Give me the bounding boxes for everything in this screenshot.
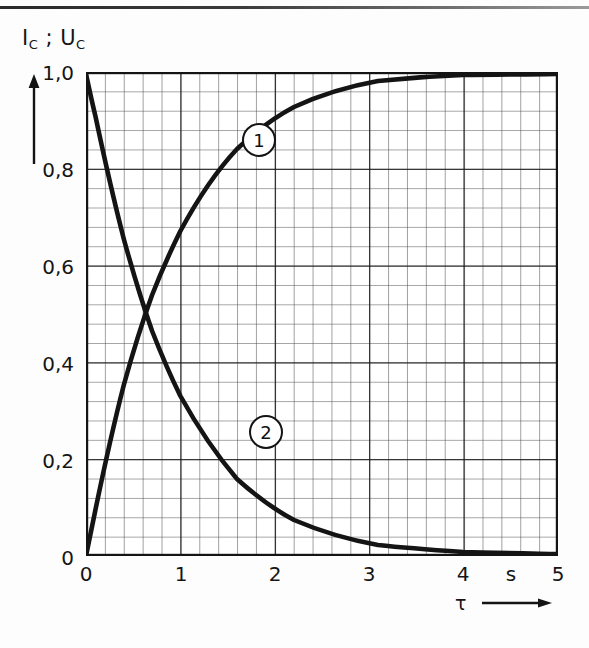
curve-2-badge: 2	[249, 415, 283, 449]
y-tick-label: 0,4	[10, 352, 74, 376]
y-axis-title: IC ; UC	[22, 26, 86, 52]
x-axis-symbol-label: τ	[455, 592, 466, 614]
x-axis-arrow-icon	[482, 596, 554, 610]
y-axis-arrow-icon	[25, 72, 43, 164]
x-axis-unit-label: s	[491, 562, 531, 586]
plot-area: 1 2	[86, 72, 558, 556]
x-tick-label: 2	[255, 562, 295, 586]
y-axis-title-sep: ; U	[38, 26, 76, 50]
curve-1-badge-label: 1	[253, 130, 264, 151]
y-tick-label: 0	[10, 546, 74, 570]
x-tick-label: 5	[538, 562, 578, 586]
y-tick-label: 1,0	[10, 61, 74, 85]
x-tick-label: 4	[443, 562, 483, 586]
y-axis-title-u-sub: C	[76, 37, 86, 52]
page-rule	[0, 6, 589, 9]
x-tick-label: 1	[161, 562, 201, 586]
y-axis-title-i-sub: C	[29, 37, 39, 52]
y-tick-label: 0,8	[10, 158, 74, 182]
x-tick-label: 3	[349, 562, 389, 586]
major-gridlines	[86, 72, 558, 556]
y-tick-label: 0,6	[10, 255, 74, 279]
x-tick-label: 0	[66, 562, 106, 586]
curve-1-badge: 1	[242, 123, 276, 157]
figure-container: IC ; UC 1,0 0,8 0,6 0,4 0,2 0 0 1 2 3 4 …	[0, 0, 589, 648]
y-axis-title-i: I	[22, 26, 29, 50]
curve-2-badge-label: 2	[260, 422, 271, 443]
y-tick-label: 0,2	[10, 449, 74, 473]
chart-svg	[86, 72, 558, 556]
